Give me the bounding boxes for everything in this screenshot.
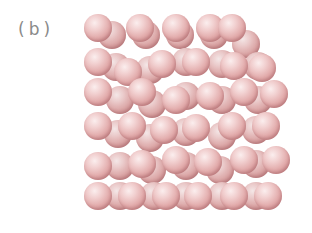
sphere-atom bbox=[148, 50, 176, 78]
sphere-atom bbox=[220, 182, 248, 210]
sphere-atom bbox=[254, 182, 282, 210]
sphere-atom bbox=[182, 114, 210, 142]
sphere-atom bbox=[252, 112, 280, 140]
sphere-atom bbox=[218, 112, 246, 140]
sphere-atom bbox=[84, 112, 112, 140]
sphere-atom bbox=[128, 78, 156, 106]
sphere-atom bbox=[84, 14, 112, 42]
sphere-atom bbox=[260, 80, 288, 108]
sphere-atom bbox=[262, 146, 290, 174]
sphere-atom bbox=[230, 146, 258, 174]
sphere-atom bbox=[84, 182, 112, 210]
sphere-atom bbox=[84, 78, 112, 106]
sphere-atom bbox=[118, 182, 146, 210]
sphere-atom bbox=[218, 14, 246, 42]
sphere-atom bbox=[126, 14, 154, 42]
sphere-atom bbox=[162, 14, 190, 42]
sphere-atom bbox=[152, 182, 180, 210]
sphere-atom bbox=[230, 78, 258, 106]
sphere-atom bbox=[162, 146, 190, 174]
sphere-atom bbox=[194, 148, 222, 176]
sphere-atom bbox=[84, 152, 112, 180]
sphere-atom bbox=[128, 150, 156, 178]
sphere-atom bbox=[150, 116, 178, 144]
sphere-packing-diagram bbox=[0, 0, 312, 233]
sphere-atom bbox=[196, 82, 224, 110]
sphere-atom bbox=[118, 112, 146, 140]
sphere-atom bbox=[162, 86, 190, 114]
sphere-atom bbox=[248, 54, 276, 82]
sphere-atom bbox=[184, 182, 212, 210]
sphere-atom bbox=[182, 48, 210, 76]
sphere-atom bbox=[220, 52, 248, 80]
sphere-atom bbox=[84, 48, 112, 76]
